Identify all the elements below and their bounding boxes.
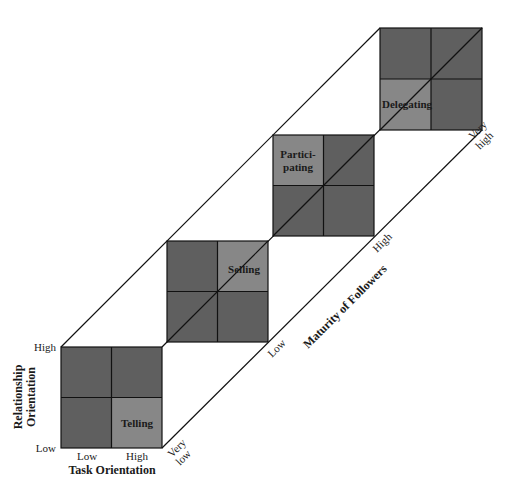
y-axis-title-line2: Orientation: [24, 367, 38, 427]
label-telling: Telling: [121, 417, 153, 429]
label-delegating: Delegating: [382, 98, 433, 110]
label-participating-2: pating: [283, 161, 313, 173]
situational-leadership-diagram: Telling Selling Partici- pating Delegati…: [0, 0, 514, 495]
quadrant-telling: Telling: [61, 347, 162, 448]
x-tick-high: High: [126, 450, 149, 462]
y-axis-title-line1: Relationship: [11, 364, 25, 429]
x-axis-title: Task Orientation: [68, 463, 156, 477]
y-tick-low: Low: [36, 442, 56, 454]
x-tick-low: Low: [77, 450, 97, 462]
quadrant-delegating: Delegating: [380, 28, 482, 130]
quadrant-selling: Selling: [167, 241, 268, 342]
label-participating-1: Partici-: [280, 148, 316, 160]
quadrant-participating: Partici- pating: [273, 135, 374, 236]
depth-axis-title: Maturity of Followers: [300, 261, 390, 351]
y-tick-high: High: [34, 341, 57, 353]
label-selling: Selling: [228, 263, 260, 275]
